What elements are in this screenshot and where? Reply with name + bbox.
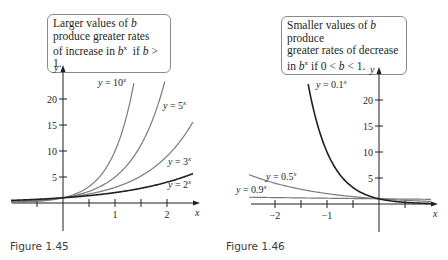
x-axis-arrow-icon [431,202,438,207]
y-tick-label: 5 [52,172,57,183]
plot-area: xy125101520y = 10xy = 5xy = 3xy = 2x [0,0,224,260]
curve-label: y = 3x [167,155,192,167]
curve-y10x [11,83,134,202]
curve-label: y = 0.5x [265,170,298,182]
curve-y0-9x [249,197,431,199]
y-axis-label: y [53,62,59,73]
x-axis-label: x [194,207,200,218]
y-tick-label: 20 [47,94,57,105]
curve-y3x [11,122,193,201]
y-tick-label: 20 [363,95,373,106]
figure-caption: Figure 1.46 [226,240,285,252]
curve-label: y = 0.9x [235,183,268,195]
curve-label: y = 0.1x [315,78,348,90]
curve-label: y = 10x [97,76,127,88]
x-tick-label: −2 [270,210,281,221]
plot-area: xy−2−15101520y = 0.1xy = 0.5xy = 0.9x [224,0,448,260]
x-tick-label: −1 [322,210,333,221]
y-tick-label: 15 [47,120,57,131]
x-tick-label: 1 [113,209,118,220]
y-axis-label: y [369,64,375,75]
y-tick-label: 10 [47,146,57,157]
y-axis-arrow-icon [61,65,66,72]
y-tick-label: 5 [368,173,373,184]
curve-label: y = 2x [167,178,192,190]
x-axis-label: x [432,208,438,219]
curve-label: y = 5x [162,99,187,111]
y-axis-arrow-icon [377,67,382,74]
curve-y2x [11,174,193,201]
y-tick-label: 10 [363,147,373,158]
y-tick-label: 15 [363,121,373,132]
x-axis-arrow-icon [193,201,200,206]
figure-1-45: Larger values of b produce greater rates… [0,0,224,260]
x-tick-label: 2 [165,209,170,220]
figure-caption: Figure 1.45 [10,240,69,252]
curve-y5x [11,82,165,202]
figure-1-46: Smaller values of b produce greater rate… [224,0,448,260]
